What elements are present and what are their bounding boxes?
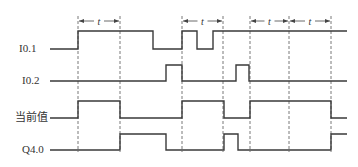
- t-interval-arrow: t: [79, 16, 119, 27]
- t-interval-arrow: t: [183, 16, 222, 27]
- t-label: t: [268, 16, 271, 27]
- dashed-reference-lines: [78, 16, 331, 152]
- signal-label-i0-1: I0.1: [19, 42, 36, 54]
- t-label: t: [98, 16, 101, 27]
- waveform-current-value: [50, 101, 347, 118]
- waveform-i0-2: [50, 65, 347, 81]
- waveform-i0-1: [50, 31, 347, 49]
- t-interval-arrow: t: [251, 16, 288, 27]
- timing-diagram-canvas: tttt: [0, 0, 358, 167]
- time-interval-arrows: tttt: [79, 16, 330, 27]
- signal-label-q4-0: Q4.0: [22, 143, 44, 155]
- signal-label-current-value: 当前值: [15, 111, 48, 123]
- timing-diagram: tttt I0.1 I0.2 当前值 Q4.0: [0, 0, 358, 167]
- t-label: t: [201, 16, 204, 27]
- signal-label-i0-2: I0.2: [22, 74, 39, 86]
- waveform-q4-0: [50, 134, 347, 150]
- t-interval-arrow: t: [290, 16, 330, 27]
- t-label: t: [309, 16, 312, 27]
- signal-waveforms: [50, 31, 347, 150]
